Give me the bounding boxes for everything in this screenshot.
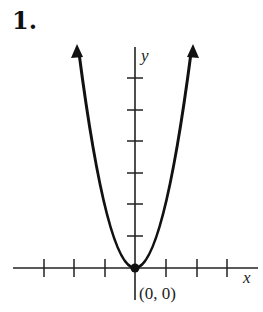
parabola-graph: y x (0, 0): [0, 0, 263, 312]
arrow-up-left-icon: [71, 44, 83, 58]
y-axis-label: y: [139, 46, 149, 65]
origin-label: (0, 0): [139, 284, 176, 303]
arrow-up-right-icon: [187, 44, 199, 58]
origin-point: [131, 264, 140, 273]
x-axis-label: x: [242, 268, 251, 287]
